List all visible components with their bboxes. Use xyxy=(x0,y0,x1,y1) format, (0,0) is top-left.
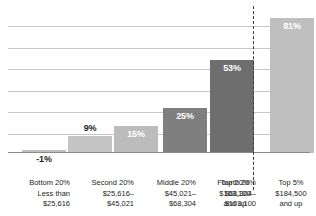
axis-label-bottom-20-line: $25,616 xyxy=(8,199,70,210)
bar-top-20[interactable]: 53% xyxy=(210,60,254,153)
bar-fourth-20-value-label: 25% xyxy=(163,111,207,121)
axis-baseline xyxy=(8,152,310,153)
category-axis-labels: Bottom 20%Less than$25,616Second 20%$25,… xyxy=(8,178,310,216)
gridline-4 xyxy=(8,112,310,113)
gridline-2 xyxy=(8,69,310,70)
gridline-3 xyxy=(8,91,310,92)
axis-label-second-20-line: $25,616– xyxy=(72,189,134,200)
bar-top-5-value-label: 81% xyxy=(270,21,314,31)
axis-label-top-20-line: and up xyxy=(204,199,266,210)
axis-label-middle-20-line: Middle 20% xyxy=(134,178,196,189)
gridline-1 xyxy=(8,48,310,49)
axis-label-middle-20-line: $68,304 xyxy=(134,199,196,210)
axis-label-top-5-line: Top 5% xyxy=(260,178,316,189)
bar-middle-20-value-label: 15% xyxy=(114,129,158,139)
axis-label-bottom-20-line: Bottom 20% xyxy=(8,178,70,189)
axis-label-middle-20-line: $45,021– xyxy=(134,189,196,200)
bar-middle-20[interactable]: 15% xyxy=(114,126,158,153)
bar-bottom-20-value-label: -1% xyxy=(22,154,66,164)
axis-label-second-20: Second 20%$25,616–$45,021 xyxy=(72,178,134,210)
axis-label-top-20-line: $103,100 xyxy=(204,189,266,200)
bar-second-20-value-label: 9% xyxy=(68,123,112,133)
axis-label-top-20-line: Top 20% xyxy=(204,178,266,189)
plot-area: -1%9%15%25%53%81% xyxy=(8,8,310,153)
axis-label-second-20-line: Second 20% xyxy=(72,178,134,189)
axis-label-bottom-20: Bottom 20%Less than$25,616 xyxy=(8,178,70,210)
gridline-0 xyxy=(8,26,310,27)
bar-top-5[interactable]: 81% xyxy=(270,18,314,153)
bar-second-20[interactable]: 9% xyxy=(68,136,112,153)
axis-label-second-20-line: $45,021 xyxy=(72,199,134,210)
axis-label-top-5: Top 5%$184,500and up xyxy=(260,178,316,210)
axis-label-bottom-20-line: Less than xyxy=(8,189,70,200)
axis-label-middle-20: Middle 20%$45,021–$68,304 xyxy=(134,178,196,210)
axis-label-top-5-line: $184,500 xyxy=(260,189,316,200)
axis-label-top-20: Top 20%$103,100and up xyxy=(204,178,266,210)
axis-label-top-5-line: and up xyxy=(260,199,316,210)
bar-top-20-value-label: 53% xyxy=(210,63,254,73)
bar-fourth-20[interactable]: 25% xyxy=(163,108,207,153)
group-divider-dashed-line xyxy=(253,6,254,190)
bar-chart: -1%9%15%25%53%81% Bottom 20%Less than$25… xyxy=(0,0,316,216)
gridline-5 xyxy=(8,134,310,135)
